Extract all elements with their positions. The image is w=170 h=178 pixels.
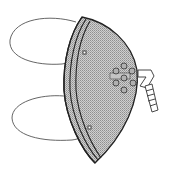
respirator-drawing — [0, 0, 170, 178]
hose-connector — [138, 70, 158, 112]
strap-clip-upper — [83, 51, 86, 54]
strap-clip-lower — [88, 126, 91, 129]
respirator-illustration — [0, 0, 170, 178]
